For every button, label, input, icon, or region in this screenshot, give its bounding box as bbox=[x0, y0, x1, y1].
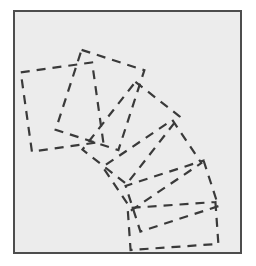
figure-container bbox=[0, 0, 256, 266]
annulus-sector-6 bbox=[0, 41, 14, 155]
sector-group bbox=[0, 41, 14, 253]
quarter-annulus-figure bbox=[0, 0, 256, 266]
